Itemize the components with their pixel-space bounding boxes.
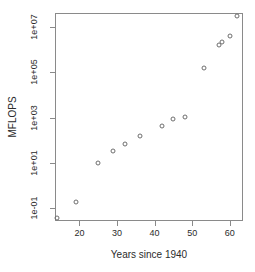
y-tick-label: 1e+01 (30, 150, 39, 175)
y-tick-label: 1e-01 (30, 197, 39, 220)
y-tick-mark (50, 208, 55, 209)
x-tick-mark (117, 221, 118, 226)
data-point (111, 148, 116, 153)
y-tick-label: 1e+05 (30, 59, 39, 84)
y-tick-mark (50, 27, 55, 28)
data-point (160, 124, 165, 129)
y-tick-mark (50, 72, 55, 73)
y-axis-title: MFLOPS (8, 96, 18, 137)
x-tick-label: 20 (74, 229, 84, 238)
data-point (182, 114, 187, 119)
y-tick-label: 1e+07 (30, 14, 39, 39)
y-tick-mark (50, 118, 55, 119)
plot-frame (55, 13, 243, 221)
y-tick-mark (50, 163, 55, 164)
data-point (122, 141, 127, 146)
data-point (137, 134, 142, 139)
data-point (201, 66, 206, 71)
x-tick-mark (79, 221, 80, 226)
x-tick-mark (230, 221, 231, 226)
data-point (171, 116, 176, 121)
x-axis-title: Years since 1940 (111, 250, 187, 260)
x-tick-label: 60 (225, 229, 235, 238)
x-tick-mark (192, 221, 193, 226)
data-point (54, 215, 59, 220)
scatter-plot-figure: 2030405060 1e-011e+011e+031e+051e+07 Yea… (0, 0, 255, 272)
data-point (235, 13, 240, 18)
x-tick-label: 40 (150, 229, 160, 238)
x-tick-mark (155, 221, 156, 226)
y-tick-label: 1e+03 (30, 105, 39, 130)
x-tick-label: 30 (112, 229, 122, 238)
x-tick-label: 50 (187, 229, 197, 238)
data-point (220, 39, 225, 44)
data-point (73, 199, 78, 204)
data-point (96, 161, 101, 166)
data-point (227, 33, 232, 38)
